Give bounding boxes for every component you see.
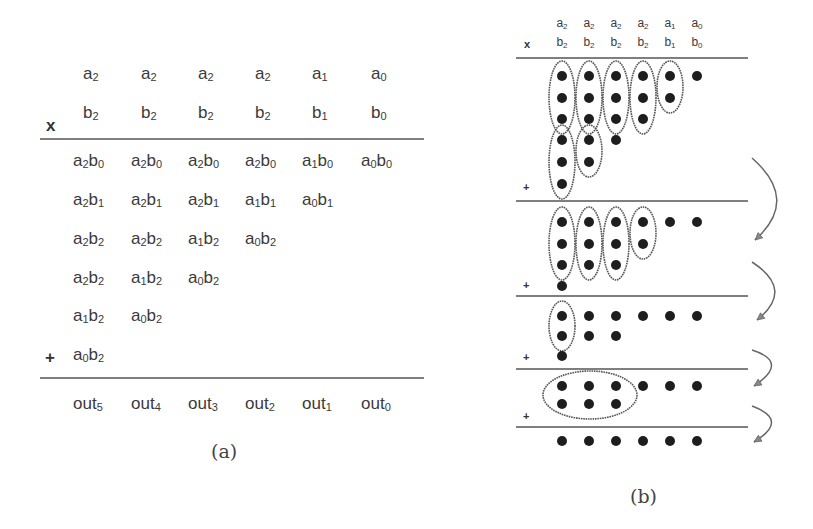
partial-product-term: a0b2	[188, 268, 219, 288]
bit-dot	[611, 93, 621, 103]
bit-dot	[584, 381, 594, 391]
bit-dot	[611, 311, 621, 321]
partial-product-term: a2b0	[188, 151, 219, 171]
partial-product-term: a2b0	[245, 151, 276, 171]
operand-a-digit: a2	[198, 64, 214, 84]
bit-dot	[692, 71, 702, 81]
bit-dot	[584, 260, 594, 270]
operand-a-digit: a1	[312, 64, 328, 84]
bit-dot	[665, 436, 675, 446]
operand-b-digit: b1	[312, 103, 328, 123]
operand-a-digit: a2	[637, 16, 648, 31]
bit-dot	[692, 381, 702, 391]
operand-a-digit: a2	[610, 16, 621, 31]
operand-b-digit: b1	[664, 35, 675, 50]
full-adder-group-ellipse	[630, 207, 656, 259]
bit-dot	[557, 157, 567, 167]
bit-dot	[557, 436, 567, 446]
partial-product-term: a0b0	[361, 151, 392, 171]
partial-product-term: a0b2	[131, 306, 162, 326]
partial-product-term: a1b1	[245, 190, 276, 210]
bit-dot	[611, 217, 621, 227]
bit-dot	[584, 239, 594, 249]
bit-dot	[557, 381, 567, 391]
bit-dot	[584, 331, 594, 341]
partial-product-term: a1b0	[302, 151, 333, 171]
bit-dot	[557, 351, 567, 361]
bit-dot	[638, 311, 648, 321]
stage-transition-arrow	[752, 158, 777, 240]
bit-dot	[557, 311, 567, 321]
partial-product-term: a0b1	[302, 190, 333, 210]
bit-dot	[557, 179, 567, 189]
output-bit: out5	[73, 394, 103, 414]
add-operator: +	[523, 279, 529, 291]
figure: x + (a) a2a2a2a2a1a0b2b2b2b2b1b0a2b0a2b0…	[0, 0, 813, 529]
bit-dot	[638, 239, 648, 249]
bit-dot	[557, 217, 567, 227]
operand-b-digit: b2	[141, 103, 157, 123]
adder-group-ellipse	[543, 371, 637, 419]
partial-product-term: a2b1	[188, 190, 219, 210]
bit-dot	[557, 239, 567, 249]
stage-transition-arrow	[752, 350, 772, 386]
partial-product-term: a2b2	[73, 229, 104, 249]
bit-dot	[638, 71, 648, 81]
bit-dot	[584, 135, 594, 145]
bit-dot	[557, 399, 567, 409]
partial-product-term: a2b2	[73, 268, 104, 288]
partial-product-term: a2b1	[73, 190, 104, 210]
bit-dot	[638, 436, 648, 446]
operand-b-digit: b2	[610, 35, 621, 50]
output-bit: out0	[361, 394, 391, 414]
diagram-canvas	[0, 0, 813, 529]
bit-dot	[584, 436, 594, 446]
partial-product-term: a2b1	[131, 190, 162, 210]
output-bit: out3	[188, 394, 218, 414]
operand-b-digit: b2	[637, 35, 648, 50]
full-adder-group-ellipse	[576, 125, 602, 177]
operand-b-digit: b2	[83, 103, 99, 123]
operand-b-digit: b2	[198, 103, 214, 123]
bit-dot	[611, 71, 621, 81]
bit-dot	[611, 436, 621, 446]
bit-dot	[584, 157, 594, 167]
full-adder-group-ellipse	[549, 301, 575, 351]
bit-dot	[665, 93, 675, 103]
bit-dot	[611, 239, 621, 249]
bit-dot	[611, 331, 621, 341]
bit-dot	[557, 135, 567, 145]
operand-a-digit: a2	[83, 64, 99, 84]
bit-dot	[665, 71, 675, 81]
bit-dot	[611, 135, 621, 145]
partial-product-term: a1b2	[131, 268, 162, 288]
operand-a-digit: a2	[583, 16, 594, 31]
partial-product-term: a1b2	[188, 229, 219, 249]
caption-a: (a)	[211, 440, 237, 462]
partial-product-term: a2b0	[131, 151, 162, 171]
output-bit: out2	[245, 394, 275, 414]
add-operator: +	[45, 348, 55, 368]
bit-dot	[692, 436, 702, 446]
bit-dot	[665, 381, 675, 391]
bit-dot	[557, 260, 567, 270]
bit-dot	[557, 93, 567, 103]
output-bit: out1	[302, 394, 332, 414]
bit-dot	[557, 331, 567, 341]
bit-dot	[638, 114, 648, 124]
bit-dot	[638, 381, 648, 391]
bit-dot	[584, 71, 594, 81]
bit-dot	[611, 399, 621, 409]
bit-dot	[665, 217, 675, 227]
bit-dot	[611, 114, 621, 124]
bit-dot	[584, 217, 594, 227]
output-bit: out4	[131, 394, 161, 414]
operand-a-digit: a2	[255, 64, 271, 84]
bit-dot	[584, 114, 594, 124]
bit-dot	[665, 311, 675, 321]
stage-transition-arrow	[752, 406, 772, 442]
partial-product-term: a2b0	[73, 151, 104, 171]
operand-b-digit: b0	[691, 35, 702, 50]
partial-product-term: a0b2	[73, 345, 104, 365]
bit-dot	[611, 381, 621, 391]
